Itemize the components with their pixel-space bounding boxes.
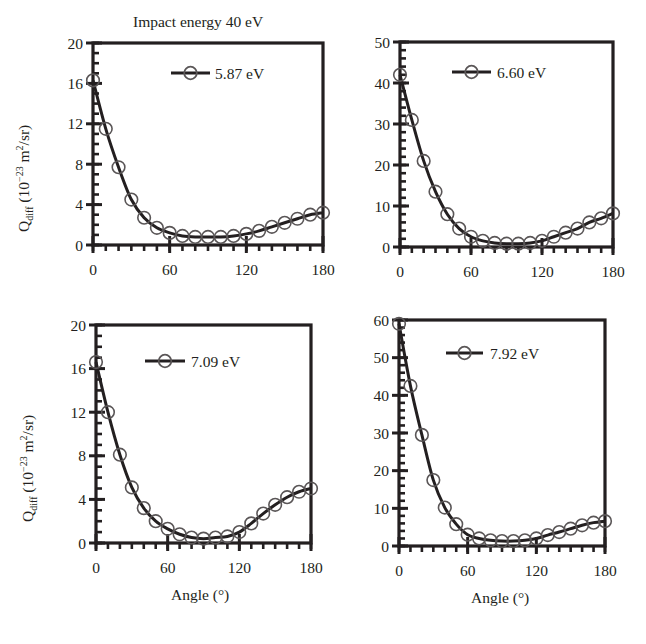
chart-panel-2: 010203040500601201806.60 eV [375,34,625,281]
series-line [96,362,311,539]
x-tick-label: 0 [89,261,97,278]
x-tick-label: 0 [395,562,403,579]
x-tick-label: 180 [601,263,625,280]
y-tick-label: 12 [71,404,87,421]
series-line [93,80,323,237]
legend: 5.87 eV [171,65,265,82]
x-tick-label: 180 [299,559,323,576]
x-tick-label: 0 [92,559,100,576]
y-tick-label: 30 [375,116,391,133]
chart-panel-1: 0481216200601201805.87 eV [68,35,335,279]
legend-label: 5.87 eV [215,65,265,82]
y-tick-label: 4 [75,196,83,213]
y-tick-label: 12 [68,115,84,132]
legend: 7.92 eV [446,345,540,362]
chart-panel-3: 0481216200601201807.09 eV [71,317,323,577]
y-tick-label: 8 [78,447,86,464]
y-tick-label: 20 [375,157,391,174]
legend-label: 6.60 eV [497,64,547,81]
y-tick-label: 60 [374,312,390,329]
y-tick-label: 20 [68,35,84,52]
legend-label: 7.09 eV [191,353,241,370]
y-tick-label: 40 [375,75,391,92]
series-line [400,75,613,244]
x-tick-label: 120 [530,263,554,280]
chart-panel-4: 01020304050600601201807.92 eV [374,312,617,580]
y-tick-label: 50 [374,349,390,366]
x-tick-label: 180 [593,562,617,579]
y-tick-label: 16 [71,360,87,377]
x-tick-label: 60 [460,562,476,579]
y-tick-label: 8 [75,156,83,173]
legend: 7.09 eV [145,353,241,370]
y-tick-label: 0 [381,538,389,555]
y-tick-label: 50 [375,34,391,51]
y-tick-label: 16 [68,75,84,92]
y-tick-label: 40 [374,387,390,404]
y-tick-label: 10 [375,198,391,215]
y-tick-label: 0 [75,237,83,254]
chart-figure: 0481216200601201805.87 eV010203040500601… [0,0,646,644]
y-tick-label: 20 [71,317,87,334]
legend-label: 7.92 eV [490,345,540,362]
y-tick-label: 20 [374,462,390,479]
x-tick-label: 60 [463,263,479,280]
y-tick-label: 30 [374,425,390,442]
y-tick-label: 10 [374,500,390,517]
y-tick-label: 0 [382,239,390,256]
x-tick-label: 120 [525,562,549,579]
x-tick-label: 0 [396,263,404,280]
x-tick-label: 60 [162,261,178,278]
legend: 6.60 eV [452,64,547,81]
x-tick-label: 180 [311,261,335,278]
y-tick-label: 4 [78,491,86,508]
x-tick-label: 120 [228,559,252,576]
x-tick-label: 60 [160,559,176,576]
y-tick-label: 0 [78,535,86,552]
x-tick-label: 120 [235,261,259,278]
